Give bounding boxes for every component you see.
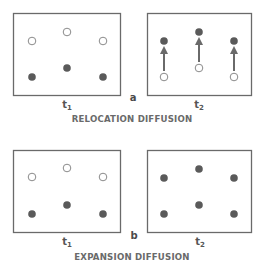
filled-dot bbox=[63, 201, 71, 209]
frame-border bbox=[14, 151, 121, 233]
panel-letter-b: b bbox=[130, 230, 137, 241]
filled-dot bbox=[160, 210, 168, 218]
open-dot bbox=[28, 37, 36, 45]
filled-dot bbox=[195, 28, 203, 36]
time-label-t2: t2 bbox=[195, 236, 205, 249]
diffusion-diagram: t1 a t2 RELOCATION DIFFUSION bbox=[0, 0, 261, 272]
filled-dot bbox=[63, 64, 71, 72]
panel-letter-a: a bbox=[130, 92, 137, 103]
filled-dot bbox=[28, 73, 36, 81]
time-label-t1: t1 bbox=[62, 99, 72, 112]
filled-dot bbox=[195, 201, 203, 209]
time-label-t2: t2 bbox=[194, 99, 204, 112]
filled-dot bbox=[160, 37, 168, 45]
time-label-t1: t1 bbox=[62, 236, 72, 249]
frame-border bbox=[148, 151, 252, 233]
open-dot bbox=[63, 164, 71, 172]
open-dot bbox=[63, 28, 71, 36]
filled-dot bbox=[28, 210, 36, 218]
filled-dot bbox=[230, 174, 238, 182]
filled-dot bbox=[99, 210, 107, 218]
filled-dot bbox=[99, 73, 107, 81]
panel-relocation-diffusion: t1 a t2 RELOCATION DIFFUSION bbox=[14, 14, 252, 125]
open-dot bbox=[160, 73, 168, 81]
filled-dot bbox=[230, 210, 238, 218]
open-dot bbox=[99, 37, 107, 45]
frame-border bbox=[14, 14, 121, 96]
panel-expansion-diffusion: t1 b t2 EXPANSION DIFFUSION bbox=[14, 151, 252, 263]
open-dot bbox=[230, 73, 238, 81]
caption-relocation-diffusion: RELOCATION DIFFUSION bbox=[72, 114, 193, 124]
open-dot bbox=[195, 64, 203, 72]
caption-expansion-diffusion: EXPANSION DIFFUSION bbox=[74, 252, 189, 262]
filled-dot bbox=[195, 165, 203, 173]
frame-relocation-t2: t2 bbox=[148, 14, 252, 113]
filled-dot bbox=[230, 37, 238, 45]
frame-expansion-t1: t1 bbox=[14, 151, 121, 250]
frame-expansion-t2: t2 bbox=[148, 151, 252, 250]
frame-relocation-t1: t1 bbox=[14, 14, 121, 113]
filled-dot bbox=[160, 174, 168, 182]
open-dot bbox=[99, 173, 107, 181]
open-dot bbox=[28, 173, 36, 181]
